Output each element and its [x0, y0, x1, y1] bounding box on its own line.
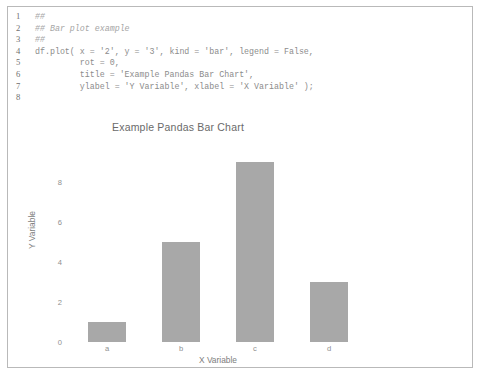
line-number: 5	[16, 57, 30, 69]
line-number: 8	[16, 92, 30, 104]
y-tick-label: 4	[58, 258, 62, 267]
chart-title: Example Pandas Bar Chart	[8, 121, 348, 133]
plot-area	[70, 153, 366, 342]
line-number: 7	[16, 81, 30, 93]
line-content: ##	[35, 34, 45, 46]
x-axis-label: X Variable	[70, 355, 366, 365]
line-content: ## Bar plot example	[35, 23, 130, 35]
line-content: ##	[35, 11, 45, 23]
line-content: rot = 0,	[35, 57, 120, 69]
code-line[interactable]: 4 df.plot( x = '2', y = '3', kind = 'bar…	[8, 46, 472, 58]
code-line[interactable]: 6 title = 'Example Pandas Bar Chart',	[8, 69, 472, 81]
y-tick-label: 8	[58, 178, 62, 187]
code-comment: ##	[35, 12, 45, 21]
x-tick-label: c	[253, 344, 257, 353]
code-line[interactable]: 8	[8, 92, 472, 104]
y-tick-label: 2	[58, 298, 62, 307]
line-content: title = 'Example Pandas Bar Chart',	[35, 69, 254, 81]
bar-chart-figure: Example Pandas Bar Chart Y Variable 0246…	[8, 107, 474, 365]
code-line[interactable]: 7 ylabel = 'Y Variable', xlabel = 'X Var…	[8, 81, 472, 93]
line-content: df.plot( x = '2', y = '3', kind = 'bar',…	[35, 46, 314, 58]
bar	[162, 242, 200, 342]
y-tick-label: 0	[58, 338, 62, 347]
x-tick-label: d	[327, 344, 331, 353]
code-line[interactable]: 5 rot = 0,	[8, 57, 472, 69]
line-number: 1	[16, 11, 30, 23]
bar	[88, 322, 126, 342]
y-tick-label: 6	[58, 218, 62, 227]
bar	[236, 162, 274, 342]
code-line[interactable]: 3 ##	[8, 34, 472, 46]
code-comment: ##	[35, 35, 45, 44]
y-axis-ticks: 02468	[8, 153, 68, 342]
line-number: 6	[16, 69, 30, 81]
x-tick-label: a	[105, 344, 109, 353]
line-number: 3	[16, 34, 30, 46]
code-comment: ## Bar plot example	[35, 24, 130, 33]
code-line[interactable]: 2 ## Bar plot example	[8, 23, 472, 35]
line-number: 4	[16, 46, 30, 58]
code-line[interactable]: 1 ##	[8, 11, 472, 23]
notebook-page-frame: 1 ## 2 ## Bar plot example 3 ## 4 df.plo…	[7, 6, 473, 368]
bar	[310, 282, 348, 342]
code-cell[interactable]: 1 ## 2 ## Bar plot example 3 ## 4 df.plo…	[8, 11, 472, 107]
x-tick-label: b	[179, 344, 183, 353]
line-content: ylabel = 'Y Variable', xlabel = 'X Varia…	[35, 81, 314, 93]
line-number: 2	[16, 23, 30, 35]
